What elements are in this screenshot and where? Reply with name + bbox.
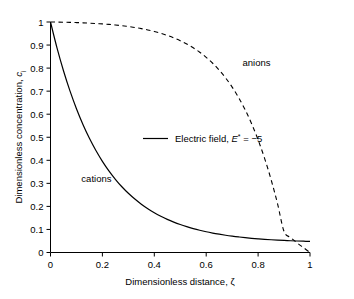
y-tick-label: 0 [38,247,43,258]
legend: Electric field, E* = −5 [143,133,262,145]
x-tick-label: 0.2 [96,259,109,270]
y-tick-label: 0.4 [30,155,43,166]
y-tick-label: 0.2 [30,201,43,212]
x-tick-label: 0.8 [251,259,264,270]
x-tick-label: 0.6 [200,259,213,270]
y-tick-label: 0.7 [30,86,43,97]
x-axis-title: Dimensionless distance, ζ [125,276,235,287]
x-axis-ticks [51,253,311,257]
y-tick-label: 0.3 [30,178,43,189]
y-tick-label: 0.6 [30,109,43,120]
x-tick-label: 1 [307,259,312,270]
annotation-anions: anions [243,57,271,68]
y-axis-title: Dimensionless concentration, ci [13,70,27,203]
y-axis-tick-labels: 00.10.20.30.40.50.60.70.80.91 [30,17,43,259]
x-tick-label: 0 [48,259,53,270]
y-tick-label: 0.8 [30,63,43,74]
y-tick-label: 0.9 [30,40,43,51]
series-cations-curve [51,22,311,241]
legend-label: Electric field, E* = −5 [175,133,262,145]
y-tick-label: 0.1 [30,224,43,235]
y-tick-label: 0.5 [30,132,43,143]
x-tick-label: 0.4 [148,259,161,270]
x-axis-tick-labels: 00.20.40.60.81 [48,259,313,270]
concentration-profile-chart: 00.10.20.30.40.50.60.70.80.91 00.20.40.6… [0,0,354,299]
y-axis-ticks [47,22,51,253]
y-tick-label: 1 [38,17,43,28]
chart-figure: 00.10.20.30.40.50.60.70.80.91 00.20.40.6… [0,0,354,299]
annotation-cations: cations [81,173,111,184]
